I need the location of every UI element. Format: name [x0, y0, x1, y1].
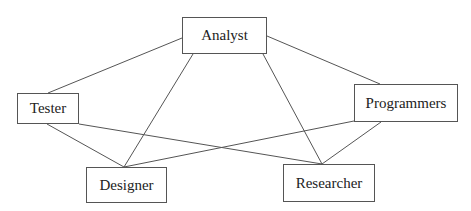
edge-analyst-designer	[124, 54, 193, 167]
edge-analyst-researcher	[263, 54, 322, 164]
edge-programmers-researcher	[322, 122, 381, 164]
node-designer: Designer	[86, 167, 167, 203]
edge-tester-researcher	[79, 124, 322, 164]
node-analyst: Analyst	[182, 17, 267, 54]
node-researcher-label: Researcher	[296, 175, 363, 192]
node-tester-label: Tester	[30, 100, 66, 117]
edge-analyst-programmers	[267, 36, 380, 84]
node-programmers: Programmers	[354, 84, 458, 122]
node-tester: Tester	[17, 93, 79, 124]
node-analyst-label: Analyst	[201, 27, 248, 44]
edge-analyst-tester	[48, 38, 182, 93]
node-programmers-label: Programmers	[366, 95, 447, 112]
team-network-diagram: Analyst Tester Programmers Designer Rese…	[0, 0, 471, 211]
edge-tester-designer	[47, 124, 124, 167]
node-researcher: Researcher	[283, 164, 375, 202]
node-designer-label: Designer	[99, 177, 153, 194]
